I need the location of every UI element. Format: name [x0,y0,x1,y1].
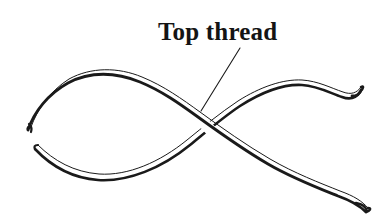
bottom-thread [34,80,363,180]
leader-line-stroke [201,48,240,111]
top-thread-label: Top thread [158,18,277,46]
leader-line [201,48,240,111]
top-thread-lower-edge [28,74,366,212]
bottom-thread-upper-edge [38,80,361,174]
thread-illustration: Top thread [0,0,386,218]
bottom-thread-lower-edge [35,85,360,180]
top-thread [28,70,371,212]
